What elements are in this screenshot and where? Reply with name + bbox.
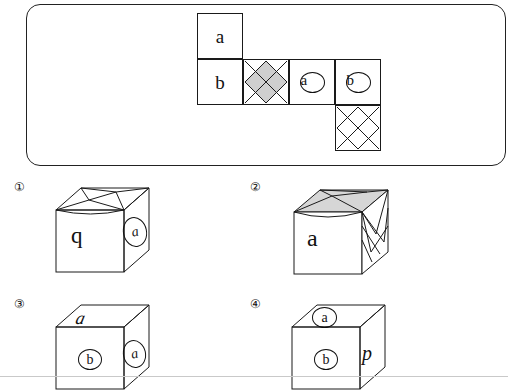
net-cell-a-circled: a: [289, 59, 335, 105]
net-cell-diamond-shaded: [243, 59, 289, 105]
page-bottom-rule: [0, 376, 508, 377]
net-cell-b-circled: b: [335, 59, 381, 105]
option-2[interactable]: ②: [250, 178, 390, 288]
option-4-top-label: a: [312, 307, 337, 328]
net-cell-a-top-label: a: [216, 27, 224, 46]
net-cell-b: b: [197, 59, 243, 105]
net-cell-b-circled-label: b: [346, 72, 371, 93]
option-4[interactable]: ④ a b p: [250, 295, 390, 387]
net-cell-a-circled-label: a: [300, 72, 325, 93]
option-3-front-label: b: [78, 349, 102, 370]
net-panel: a b a b: [26, 4, 506, 166]
option-4-side-label: p: [362, 343, 372, 363]
option-1[interactable]: ① q: [14, 178, 154, 288]
cube-2-icon: [272, 182, 392, 282]
option-1-number: ①: [14, 181, 25, 193]
net-cell-b-label: b: [215, 73, 225, 92]
option-3[interactable]: ③ a b a: [14, 295, 154, 387]
option-2-number: ②: [250, 181, 261, 193]
option-1-front-label: q: [71, 224, 83, 247]
option-3-number: ③: [14, 298, 25, 310]
net-cell-a-top: a: [197, 13, 243, 59]
option-4-front-label: b: [314, 349, 338, 370]
option-4-number: ④: [250, 298, 261, 310]
option-2-front-label: a: [307, 226, 318, 250]
net-cell-diamond-plain: [335, 105, 381, 151]
diamond-shaded-icon: [244, 60, 288, 104]
option-2-cube: [272, 182, 392, 282]
diamond-plain-icon: [336, 106, 380, 150]
